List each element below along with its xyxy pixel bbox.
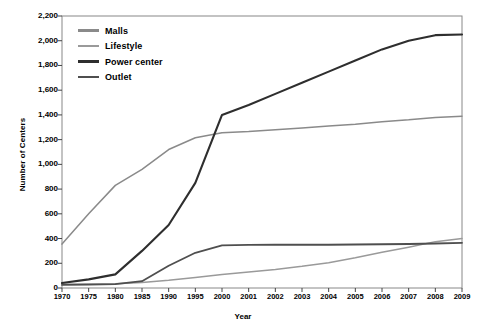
legend-label: Lifestyle bbox=[105, 41, 142, 51]
series-line-malls bbox=[62, 116, 462, 244]
legend-item[interactable]: Malls bbox=[78, 24, 163, 37]
legend-swatch-icon bbox=[78, 29, 99, 32]
legend-label: Power center bbox=[105, 57, 163, 67]
legend-swatch-icon bbox=[78, 76, 99, 79]
legend-label: Outlet bbox=[105, 72, 132, 82]
legend-swatch-icon bbox=[78, 45, 99, 48]
legend-swatch-icon bbox=[78, 60, 99, 63]
legend-item[interactable]: Outlet bbox=[78, 71, 163, 84]
line-chart: Number of Centers Year 02004006008001,00… bbox=[0, 0, 486, 329]
chart-legend: MallsLifestylePower centerOutlet bbox=[78, 24, 163, 86]
plot-area bbox=[0, 0, 486, 329]
legend-label: Malls bbox=[105, 26, 128, 36]
legend-item[interactable]: Lifestyle bbox=[78, 40, 163, 53]
legend-item[interactable]: Power center bbox=[78, 55, 163, 68]
